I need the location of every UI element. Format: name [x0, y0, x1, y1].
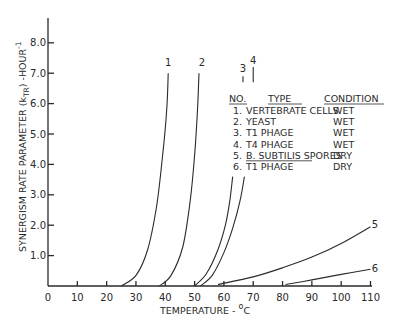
legend-row-condition: WET	[333, 105, 354, 116]
curve-label-2: 2	[199, 57, 205, 68]
curve-label-6: 6	[372, 263, 378, 274]
y-axis-superscript: -1	[14, 41, 23, 49]
x-tick-label: 100	[332, 292, 351, 303]
x-tick-label: 110	[361, 292, 380, 303]
x-tick-label: 10	[71, 292, 84, 303]
curve-label-4: 4	[250, 55, 256, 66]
legend-row: 1.VERTEBRATE CELLSWET	[233, 105, 354, 116]
y-tick-label: 2.0	[30, 220, 46, 231]
y-tick-label: 1.0	[30, 250, 46, 261]
x-tick-label: 30	[130, 292, 143, 303]
legend-row-type: T4 PHAGE	[245, 139, 293, 150]
y-tick-label: 5.0	[30, 129, 46, 140]
y-ticks: 1.02.03.04.05.06.07.08.0	[30, 37, 54, 261]
x-tick-label: 20	[100, 292, 113, 303]
y-axis-title-unit: ) -HOUR	[17, 49, 28, 88]
x-tick-label: 90	[305, 292, 318, 303]
curve-4	[201, 177, 245, 286]
legend-row: 5.B. SUBTILIS SPORESDRY	[233, 150, 352, 161]
chart: 0102030405060708090100110 1.02.03.04.05.…	[0, 0, 395, 329]
legend-header-type: TYPE	[267, 93, 291, 104]
legend-row: 4.T4 PHAGEWET	[233, 139, 354, 150]
legend-row-condition: DRY	[333, 150, 352, 161]
curve-3	[195, 177, 233, 286]
x-tick-label: 40	[159, 292, 172, 303]
legend-row-number: 6.	[233, 161, 242, 172]
legend-header-condition: CONDITION	[324, 93, 379, 104]
curve-5	[218, 227, 371, 285]
legend-row: 6.T1 PHAGEDRY	[233, 161, 352, 172]
curve-label-5: 5	[372, 219, 378, 230]
y-axis-subscript: TR	[22, 87, 31, 98]
curve-label-3: 3	[240, 63, 246, 74]
legend-row-condition: WET	[333, 139, 354, 150]
x-ticks: 0102030405060708090100110	[45, 281, 380, 303]
legend-row-type: B. SUBTILIS SPORES	[246, 150, 342, 161]
legend-row-type: T1 PHAGE	[245, 161, 293, 172]
y-tick-label: 8.0	[30, 37, 46, 48]
legend-row-number: 2.	[233, 116, 242, 127]
legend-row-number: 1.	[233, 105, 242, 116]
y-tick-label: 4.0	[30, 159, 46, 170]
legend-row: 3.T1 PHAGEWET	[233, 127, 354, 138]
curve-2	[159, 73, 199, 286]
legend-row-condition: WET	[333, 127, 354, 138]
x-axis-title: TEMPERATURE - oC	[159, 302, 250, 316]
x-tick-label: 0	[45, 292, 51, 303]
y-tick-label: 7.0	[30, 68, 46, 79]
legend-row-type: YEAST	[245, 116, 276, 127]
y-tick-label: 6.0	[30, 98, 46, 109]
legend-row-condition: DRY	[333, 161, 352, 172]
legend-row-number: 3.	[233, 127, 242, 138]
legend-row-type: T1 PHAGE	[245, 127, 293, 138]
x-tick-label: 60	[218, 292, 231, 303]
x-tick-label: 70	[247, 292, 260, 303]
x-axis-title-text: TEMPERATURE -	[159, 305, 239, 316]
y-axis-title-text: SYNERGISM RATE PARAMETER (k	[17, 97, 28, 252]
curve-6	[286, 269, 371, 284]
legend-header-no: NO.	[229, 93, 246, 104]
celsius-unit: C	[243, 305, 250, 316]
legend: NO.TYPECONDITION1.VERTEBRATE CELLSWET2.Y…	[229, 93, 384, 172]
y-axis-title: SYNERGISM RATE PARAMETER (kTR) -HOUR-1	[14, 41, 31, 252]
legend-row-condition: WET	[333, 116, 354, 127]
legend-row-type: VERTEBRATE CELLS	[246, 105, 339, 116]
curve-label-1: 1	[165, 57, 171, 68]
legend-row-number: 4.	[233, 139, 242, 150]
x-tick-label: 80	[276, 292, 289, 303]
y-tick-label: 3.0	[30, 189, 46, 200]
curve-1	[121, 73, 168, 286]
x-tick-label: 50	[188, 292, 201, 303]
legend-row: 2.YEASTWET	[233, 116, 354, 127]
legend-row-number: 5.	[233, 150, 242, 161]
